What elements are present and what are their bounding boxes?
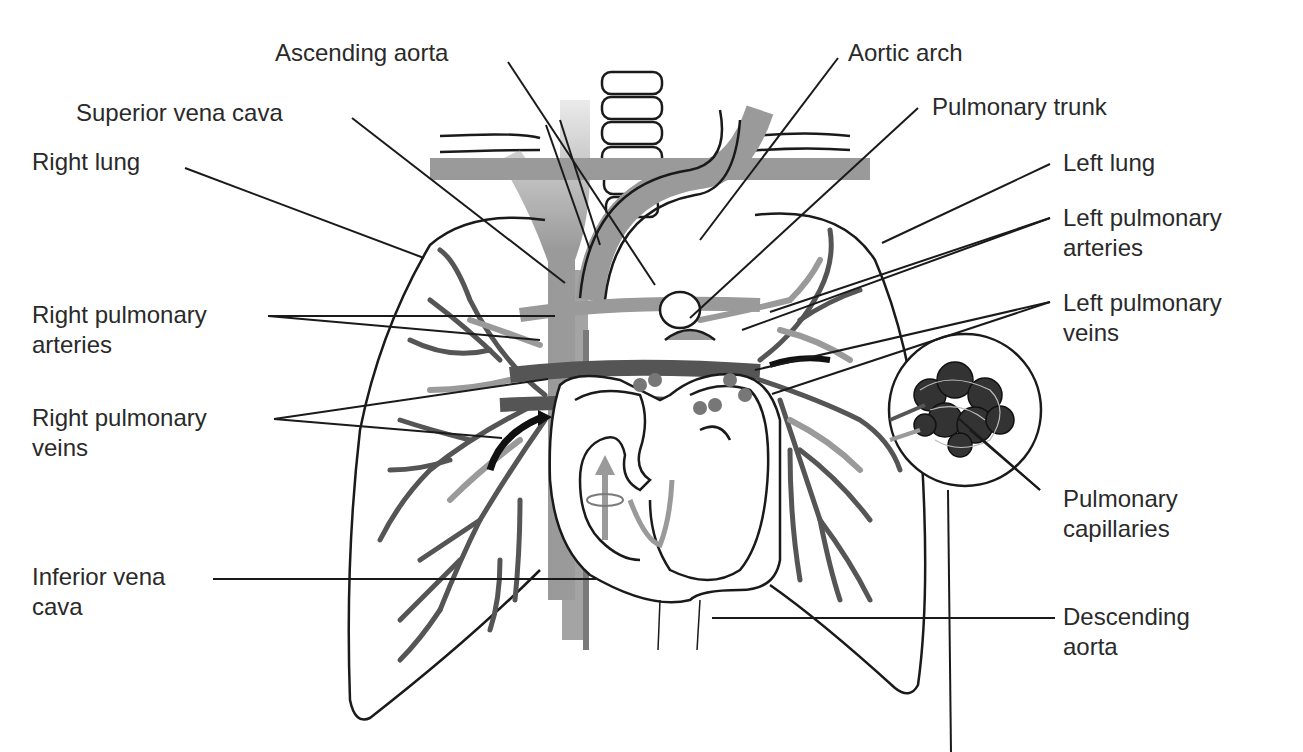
label-text-line2: veins bbox=[1063, 318, 1222, 348]
pulmonary-trunk-shape bbox=[660, 292, 700, 328]
label-text-line1: Inferior vena bbox=[32, 562, 165, 592]
leader-left-pulm-art-1 bbox=[770, 218, 1050, 312]
label-left-pulmonary-veins: Left pulmonary veins bbox=[1063, 288, 1222, 348]
pulmonary-circulation-diagram: Ascending aorta Aortic arch Superior ven… bbox=[0, 0, 1303, 752]
leader-left-lung bbox=[882, 164, 1050, 243]
label-right-pulmonary-arteries: Right pulmonary arteries bbox=[32, 300, 207, 360]
label-text: Aortic arch bbox=[848, 38, 963, 68]
label-text-line2: arteries bbox=[1063, 233, 1222, 263]
label-text-line1: Left pulmonary bbox=[1063, 203, 1222, 233]
label-right-lung: Right lung bbox=[32, 147, 140, 177]
label-text-line1: Right pulmonary bbox=[32, 403, 207, 433]
label-text-line2: capillaries bbox=[1063, 514, 1178, 544]
label-superior-vena-cava: Superior vena cava bbox=[76, 98, 283, 128]
label-left-pulmonary-arteries: Left pulmonary arteries bbox=[1063, 203, 1222, 263]
label-pulmonary-trunk: Pulmonary trunk bbox=[932, 92, 1107, 122]
heart-icon bbox=[550, 374, 780, 602]
label-text-line2: cava bbox=[32, 592, 165, 622]
label-text-line1: Left pulmonary bbox=[1063, 288, 1222, 318]
label-right-pulmonary-veins: Right pulmonary veins bbox=[32, 403, 207, 463]
label-text-line1: Pulmonary bbox=[1063, 484, 1178, 514]
right-lung-outline bbox=[349, 218, 545, 720]
label-text: Left lung bbox=[1063, 148, 1155, 178]
label-text-line1: Right pulmonary bbox=[32, 300, 207, 330]
label-ascending-aorta: Ascending aorta bbox=[275, 38, 448, 68]
label-text: Superior vena cava bbox=[76, 98, 283, 128]
label-text-line2: veins bbox=[32, 433, 207, 463]
leader-right-lung bbox=[185, 168, 424, 258]
capillary-magnifier-icon bbox=[889, 334, 1041, 752]
label-text: Ascending aorta bbox=[275, 38, 448, 68]
label-text-line2: aorta bbox=[1063, 632, 1190, 662]
label-left-lung: Left lung bbox=[1063, 148, 1155, 178]
label-pulmonary-capillaries: Pulmonary capillaries bbox=[1063, 484, 1178, 544]
label-descending-aorta: Descending aorta bbox=[1063, 602, 1190, 662]
label-text: Right lung bbox=[32, 147, 140, 177]
label-inferior-vena-cava: Inferior vena cava bbox=[32, 562, 165, 622]
label-aortic-arch: Aortic arch bbox=[848, 38, 963, 68]
label-text-line1: Descending bbox=[1063, 602, 1190, 632]
label-text: Pulmonary trunk bbox=[932, 92, 1107, 122]
leader-right-pulm-vein-2 bbox=[274, 419, 502, 438]
label-text-line2: arteries bbox=[32, 330, 207, 360]
